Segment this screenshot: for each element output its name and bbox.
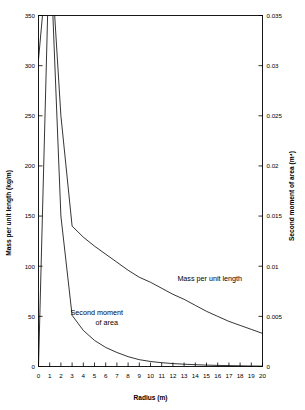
svg-text:13: 13 (181, 372, 188, 379)
svg-text:150: 150 (25, 212, 36, 219)
svg-text:18: 18 (237, 372, 244, 379)
svg-text:10: 10 (147, 372, 154, 379)
svg-text:250: 250 (25, 112, 36, 119)
svg-text:17: 17 (225, 372, 232, 379)
second-moment-label-line1: Second moment (71, 308, 123, 317)
right-axis-title: Second moment of area (m⁴) (288, 151, 296, 241)
svg-text:0.03: 0.03 (267, 62, 280, 69)
svg-text:9: 9 (138, 372, 142, 379)
svg-text:350: 350 (25, 12, 36, 19)
dual-axis-line-chart: 01234567891011121314151617181920 0501001… (0, 0, 305, 410)
svg-text:6: 6 (104, 372, 108, 379)
svg-text:0.035: 0.035 (267, 12, 283, 19)
svg-text:300: 300 (25, 62, 36, 69)
svg-text:5: 5 (93, 372, 97, 379)
svg-text:100: 100 (25, 263, 36, 270)
svg-text:200: 200 (25, 162, 36, 169)
second-moment-label-line2: of area (96, 318, 118, 327)
x-axis-title: Radius (m) (133, 394, 167, 402)
svg-text:20: 20 (259, 372, 266, 379)
svg-text:16: 16 (214, 372, 221, 379)
chart-figure: 01234567891011121314151617181920 0501001… (0, 0, 305, 410)
svg-text:0: 0 (37, 372, 41, 379)
svg-text:8: 8 (126, 372, 130, 379)
svg-text:12: 12 (169, 372, 176, 379)
svg-text:4: 4 (82, 372, 86, 379)
svg-text:0: 0 (32, 363, 36, 370)
left-axis-title: Mass per unit length (kg/m) (5, 170, 13, 256)
svg-text:0.02: 0.02 (267, 162, 280, 169)
svg-text:19: 19 (248, 372, 255, 379)
svg-text:0: 0 (267, 363, 271, 370)
svg-text:0.025: 0.025 (267, 112, 283, 119)
mass-per-unit-length-label: Mass per unit length (177, 274, 242, 283)
svg-text:1: 1 (48, 372, 52, 379)
svg-text:7: 7 (115, 372, 119, 379)
svg-text:2: 2 (59, 372, 63, 379)
svg-text:0.01: 0.01 (267, 263, 280, 270)
svg-text:11: 11 (158, 372, 165, 379)
svg-text:50: 50 (28, 313, 35, 320)
svg-text:14: 14 (192, 372, 199, 379)
svg-text:0.015: 0.015 (267, 212, 283, 219)
svg-text:3: 3 (70, 372, 74, 379)
svg-text:0.005: 0.005 (267, 313, 283, 320)
svg-text:15: 15 (203, 372, 210, 379)
chart-background (0, 0, 305, 410)
